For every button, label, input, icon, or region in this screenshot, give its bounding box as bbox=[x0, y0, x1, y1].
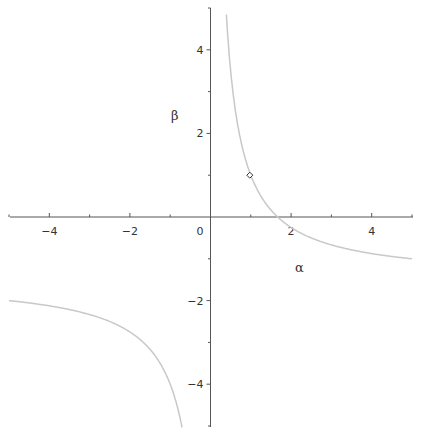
curve-left-branch bbox=[9, 301, 182, 428]
tick-labels: −4−2024−4−224 bbox=[41, 44, 375, 391]
y-tick-label: 2 bbox=[197, 127, 204, 140]
x-tick-label: −4 bbox=[41, 225, 57, 238]
x-axis-label: α bbox=[295, 260, 304, 275]
y-tick-label: 4 bbox=[197, 44, 204, 57]
y-axis-label: β bbox=[171, 108, 179, 123]
y-tick-label: −4 bbox=[187, 378, 203, 391]
y-tick-label: −2 bbox=[187, 295, 203, 308]
x-tick-label: 0 bbox=[197, 225, 204, 238]
axes bbox=[9, 8, 413, 427]
x-tick-label: −2 bbox=[122, 225, 138, 238]
curve-right-branch bbox=[226, 15, 412, 259]
chart: −4−2024−4−224 β α bbox=[0, 0, 423, 436]
x-tick-label: 4 bbox=[368, 225, 375, 238]
